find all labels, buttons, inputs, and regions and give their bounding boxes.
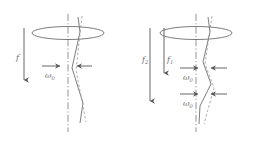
left-panel: f ω0	[15, 14, 104, 132]
omega-row-1: ω0	[180, 68, 227, 83]
force-arrow-f: f	[15, 28, 24, 80]
omega-label: ω0	[183, 73, 194, 83]
omega-row-1: ω0	[42, 66, 92, 81]
figure-canvas: f ω0 f2 f1	[0, 0, 261, 144]
f1-subscript: 1	[170, 59, 173, 65]
undeflected-shaft-dashed	[76, 16, 86, 122]
omega-label: ω0	[183, 99, 194, 109]
omega-subscript: 0	[190, 77, 194, 83]
force-arrow-f1: f1	[164, 28, 173, 73]
force-arrow-f1-label: f1	[166, 55, 173, 65]
omega-row-2: ω0	[180, 94, 227, 109]
force-arrow-f2-label: f2	[141, 55, 148, 65]
omega-subscript: 0	[190, 103, 194, 109]
f2-subscript: 2	[144, 59, 148, 65]
omega-subscript: 0	[52, 75, 56, 81]
right-panel: f2 f1 ω0 ω0	[141, 14, 232, 132]
force-arrow-f-label: f	[15, 53, 21, 62]
deflected-shaft-solid	[72, 17, 83, 123]
omega-label: ω0	[45, 71, 56, 81]
deflected-shaft-solid	[199, 17, 211, 124]
physics-diagram-figure: f ω0 f2 f1	[0, 0, 261, 144]
force-arrow-f2: f2	[141, 28, 150, 101]
